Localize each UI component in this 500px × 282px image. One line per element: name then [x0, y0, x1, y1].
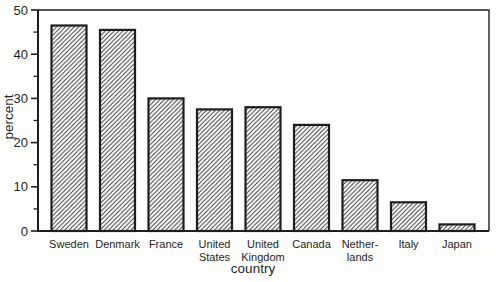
x-category-label: lands: [347, 251, 374, 263]
bar-canada: [294, 125, 329, 231]
bar-denmark: [100, 30, 135, 231]
x-category-label: Japan: [442, 238, 472, 250]
chart-svg: 01020304050SwedenDenmarkFranceUnitedStat…: [0, 0, 500, 282]
x-category-label: United: [199, 238, 231, 250]
x-category-label: States: [199, 251, 231, 263]
plot-area: 01020304050SwedenDenmarkFranceUnitedStat…: [14, 3, 489, 263]
bar-united-states: [197, 109, 232, 231]
bar-united-kingdom: [246, 107, 281, 231]
x-category-label: Italy: [398, 238, 419, 250]
x-category-label: United: [247, 238, 279, 250]
bar-chart-figure: 01020304050SwedenDenmarkFranceUnitedStat…: [0, 0, 500, 282]
bar-sweden: [52, 26, 87, 232]
bar-france: [149, 98, 184, 231]
y-tick-label: 50: [14, 3, 28, 18]
y-tick-label: 0: [21, 224, 28, 239]
x-category-label: Nether-: [342, 238, 379, 250]
x-axis-title: country: [231, 261, 276, 276]
x-category-label: Sweden: [49, 238, 89, 250]
y-axis-title: percent: [1, 94, 16, 139]
x-category-label: Canada: [292, 238, 331, 250]
bar-netherlands: [343, 180, 378, 231]
y-tick-label: 40: [14, 47, 28, 62]
x-category-label: Denmark: [95, 238, 140, 250]
bar-italy: [391, 202, 426, 231]
x-category-label: France: [149, 238, 183, 250]
y-tick-label: 10: [14, 179, 28, 194]
